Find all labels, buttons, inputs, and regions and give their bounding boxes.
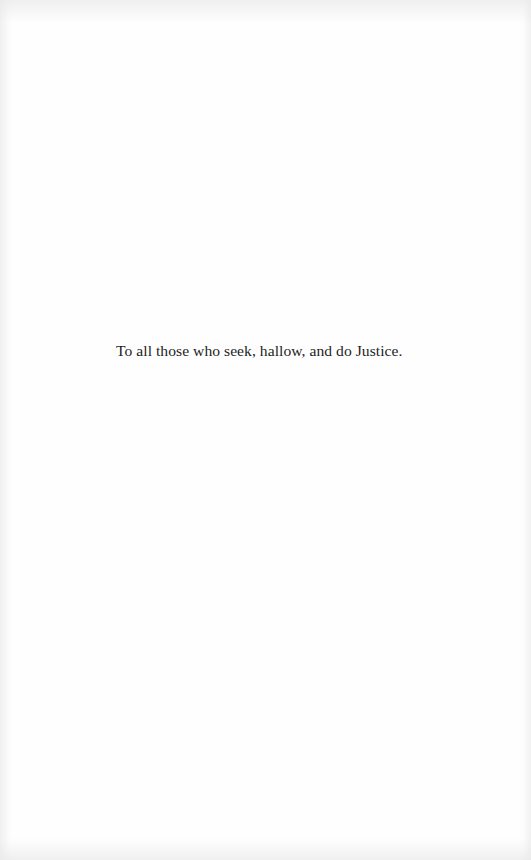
book-page: To all those who seek, hallow, and do Ju… [0, 0, 531, 860]
scan-edge-shading [0, 838, 531, 860]
dedication-text: To all those who seek, hallow, and do Ju… [0, 341, 531, 361]
scan-edge-shading [523, 0, 531, 860]
scan-edge-shading [0, 0, 531, 24]
scan-edge-shading [0, 0, 10, 860]
